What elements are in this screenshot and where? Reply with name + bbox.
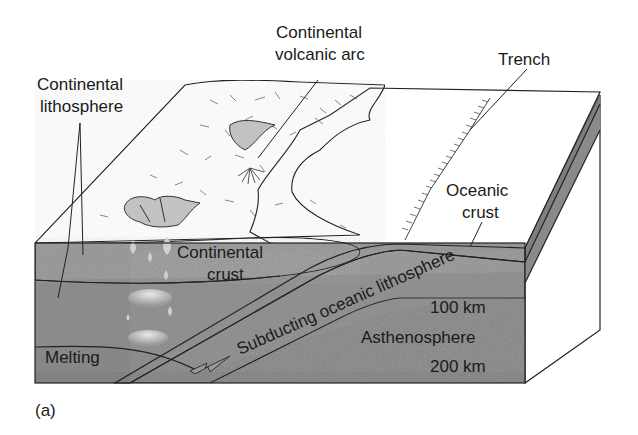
label-melting: Melting — [45, 348, 100, 367]
block-side-face — [525, 95, 600, 383]
label-continental-crust-line1: Continental — [177, 243, 263, 262]
label-continental-volcanic-arc-line1: Continental — [276, 23, 362, 42]
label-oceanic-crust-line2: crust — [462, 203, 499, 222]
label-depth-100km: 100 km — [430, 298, 486, 317]
label-continental-crust-line2: crust — [207, 265, 244, 284]
label-continental-lithosphere-line1: Continental — [37, 75, 123, 94]
label-trench: Trench — [498, 50, 550, 69]
subduction-zone-diagram: Continental lithosphere Continental volc… — [0, 0, 638, 435]
label-oceanic-crust-line1: Oceanic — [446, 181, 509, 200]
label-depth-200km: 200 km — [430, 357, 486, 376]
label-asthenosphere: Asthenosphere — [361, 328, 475, 347]
label-continental-lithosphere-line2: lithosphere — [40, 97, 123, 116]
label-continental-volcanic-arc-line2: volcanic arc — [275, 45, 365, 64]
panel-label: (a) — [35, 401, 56, 420]
